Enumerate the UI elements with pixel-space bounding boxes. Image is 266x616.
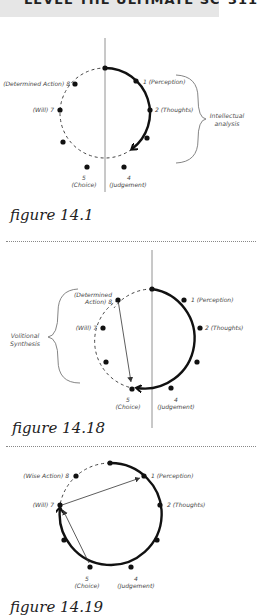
brace-label-1: Volitional — [11, 332, 40, 339]
label-choice: (Choice) — [115, 403, 140, 410]
caption-14-19: figure 14.19 — [9, 598, 103, 616]
label-wise-action: (Wise Action) 8 — [23, 472, 69, 479]
arrow-7-to-1 — [62, 478, 140, 505]
brace-label-1: Intellectual — [210, 112, 245, 119]
figure-14-18: 1 (Perception) 2 (Thoughts) 4 (Judgement… — [0, 245, 266, 445]
brace-volitional — [48, 289, 80, 383]
label-5: 5 — [85, 575, 89, 582]
label-perception: 1 (Perception) — [143, 78, 185, 86]
brace-intellectual — [176, 75, 206, 163]
brace-label-2: analysis — [214, 120, 240, 128]
label-4: 4 — [134, 575, 138, 582]
arrow-8-to-5 — [118, 300, 131, 382]
figure-14-19: 1 (Perception) 2 (Thoughts) 4 (Judgement… — [0, 450, 266, 616]
label-judgement: (Judgement) — [109, 181, 146, 189]
label-5: 5 — [126, 396, 130, 403]
label-choice: (Choice) — [74, 582, 99, 589]
label-perception: 1 (Perception) — [191, 296, 233, 304]
label-will: (Will) 7 — [33, 106, 55, 113]
dotted-separator — [6, 241, 256, 242]
dashed-arc — [60, 463, 110, 505]
label-judgement: (Judgement) — [117, 582, 154, 590]
label-will: (Will) 7 — [76, 324, 98, 331]
caption-14-1: figure 14.1 — [9, 206, 93, 224]
label-thoughts: 2 (Thoughts) — [205, 324, 243, 332]
label-5: 5 — [82, 174, 86, 181]
arrow-5-to-7 — [63, 510, 89, 563]
label-thoughts: 2 (Thoughts) — [155, 106, 193, 114]
label-will: (Will) 7 — [33, 501, 55, 508]
label-4: 4 — [127, 174, 131, 181]
label-determined-2: Action) 8 — [84, 298, 112, 305]
label-perception: 1 (Perception) — [151, 472, 193, 480]
label-determined-action: (Determined Action) 8 — [3, 80, 70, 87]
label-determined-1: (Determined — [74, 291, 112, 298]
label-judgement: (Judgement) — [157, 403, 194, 411]
dotted-separator — [6, 446, 256, 447]
cycle-points — [100, 286, 202, 391]
figure-14-1: 1 (Perception) 2 (Thoughts) 4 (Judgement… — [0, 0, 266, 250]
label-choice: (Choice) — [71, 181, 96, 188]
caption-14-18: figure 14.18 — [11, 419, 105, 437]
dashed-arc-left — [95, 300, 132, 388]
brace-label-2: Synthesis — [10, 340, 41, 348]
solid-arc-arrow — [137, 289, 195, 389]
label-thoughts: 2 (Thoughts) — [167, 501, 205, 509]
label-4: 4 — [174, 396, 178, 403]
